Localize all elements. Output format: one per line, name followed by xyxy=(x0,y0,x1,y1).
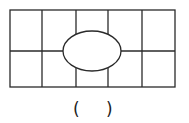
answer-blank: ( ) xyxy=(0,98,189,122)
close-paren: ) xyxy=(106,98,113,120)
open-paren: ( xyxy=(73,98,80,120)
grid-ellipse-figure xyxy=(0,0,189,100)
center-ellipse xyxy=(63,31,121,71)
